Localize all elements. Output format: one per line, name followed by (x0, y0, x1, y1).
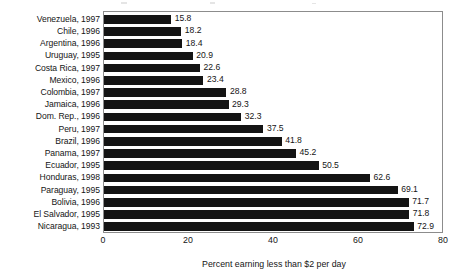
bar-row: 45.2 (104, 148, 442, 160)
bar (104, 88, 226, 97)
category-label: Paraguay, 1995 (0, 185, 100, 195)
bar (104, 222, 414, 231)
bar (104, 39, 182, 48)
bar-value-label: 50.5 (322, 160, 339, 171)
bar-value-label: 45.2 (300, 147, 317, 158)
bar-row: 29.3 (104, 99, 442, 111)
category-label: Chile, 1996 (0, 26, 100, 36)
bar-value-label: 69.1 (401, 184, 418, 195)
bar-value-label: 41.8 (285, 135, 302, 146)
bar (104, 161, 319, 170)
category-label: Peru, 1997 (0, 124, 100, 134)
x-axis-tick-labels: 020406080 (103, 234, 443, 248)
bar-row: 22.6 (104, 62, 442, 74)
bar-row: 15.8 (104, 14, 442, 26)
x-tick-label: 80 (438, 234, 448, 246)
bar-value-label: 23.4 (207, 74, 224, 85)
category-label: Argentina, 1996 (0, 38, 100, 48)
category-label: Colombia, 1997 (0, 87, 100, 97)
bar-row: 62.6 (104, 172, 442, 184)
bar (104, 186, 398, 195)
category-label: Mexico, 1996 (0, 75, 100, 85)
bar (104, 210, 409, 219)
bar (104, 76, 203, 85)
category-label: Ecuador, 1995 (0, 160, 100, 170)
x-tick-label: 20 (183, 234, 193, 246)
scan-speckle (312, 3, 316, 4)
bar (104, 137, 282, 146)
bar (104, 15, 171, 24)
bar (104, 100, 229, 109)
bar (104, 64, 200, 73)
bar-row: 41.8 (104, 136, 442, 148)
category-label: Venezuela, 1997 (0, 14, 100, 24)
bar-value-label: 32.3 (245, 111, 262, 122)
scan-speckle (210, 2, 215, 4)
category-label: Jamaica, 1996 (0, 99, 100, 109)
bar (104, 125, 263, 134)
bar (104, 149, 296, 158)
bar (104, 52, 193, 61)
bar-row: 18.4 (104, 38, 442, 50)
bar-row: 69.1 (104, 184, 442, 196)
category-axis-labels: Venezuela, 1997Chile, 1996Argentina, 199… (0, 12, 100, 232)
x-axis-title: Percent earning less than $2 per day (0, 258, 468, 270)
x-tick-label: 40 (268, 234, 278, 246)
bar-value-label: 18.2 (185, 25, 202, 36)
bar-chart-figure: Venezuela, 1997Chile, 1996Argentina, 199… (0, 0, 468, 276)
bar-value-label: 18.4 (186, 38, 203, 49)
bar-row: 72.9 (104, 221, 442, 233)
bar (104, 174, 370, 183)
bar-value-label: 28.8 (230, 86, 247, 97)
category-label: Costa Rica, 1997 (0, 63, 100, 73)
bar-row: 20.9 (104, 50, 442, 62)
bar-value-label: 62.6 (374, 172, 391, 183)
bar (104, 27, 181, 36)
bar-row: 50.5 (104, 160, 442, 172)
bar (104, 113, 241, 122)
x-tick-label: 0 (101, 234, 106, 246)
bar (104, 198, 409, 207)
bar-value-label: 20.9 (196, 50, 213, 61)
plot-area: 15.818.218.420.922.623.428.829.332.337.5… (103, 11, 443, 233)
category-label: Nicaragua, 1993 (0, 221, 100, 231)
category-label: Uruguay, 1995 (0, 50, 100, 60)
bar-row: 37.5 (104, 123, 442, 135)
category-label: Panama, 1997 (0, 148, 100, 158)
bar-value-label: 71.8 (413, 208, 430, 219)
bar-value-label: 15.8 (175, 13, 192, 24)
category-label: Honduras, 1998 (0, 172, 100, 182)
category-label: El Salvador, 1995 (0, 209, 100, 219)
bar-row: 18.2 (104, 26, 442, 38)
x-tick-label: 60 (353, 234, 363, 246)
category-label: Brazil, 1996 (0, 136, 100, 146)
bar-row: 23.4 (104, 75, 442, 87)
bar-value-label: 71.7 (412, 196, 429, 207)
x-axis-title-text: Percent earning less than $2 per day (202, 259, 346, 269)
category-label: Dom. Rep., 1996 (0, 111, 100, 121)
category-label: Bolivia, 1996 (0, 197, 100, 207)
bar-row: 32.3 (104, 111, 442, 123)
bar-value-label: 22.6 (204, 62, 221, 73)
bar-value-label: 29.3 (232, 99, 249, 110)
scan-speckle (121, 2, 127, 4)
bar-row: 28.8 (104, 87, 442, 99)
bar-row: 71.8 (104, 209, 442, 221)
bar-value-label: 37.5 (267, 123, 284, 134)
bar-row: 71.7 (104, 197, 442, 209)
bar-value-label: 72.9 (417, 221, 434, 232)
